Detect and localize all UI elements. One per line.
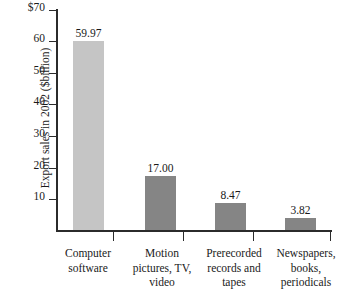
x-axis-line <box>56 230 332 232</box>
bar-value-prerecorded-records: 8.47 <box>220 189 240 201</box>
y-tick-label-40: 40 <box>34 95 46 107</box>
y-tick-50: 50 <box>49 73 58 74</box>
x-tick-2 <box>183 232 184 241</box>
x-tick-3 <box>253 232 254 241</box>
y-tick-label-30: 30 <box>34 127 46 139</box>
y-tick-label-20: 20 <box>34 159 46 171</box>
y-tick-20: 20 <box>49 168 58 169</box>
y-tick-label-10: 10 <box>34 190 46 202</box>
y-tick-60: 60 <box>49 41 58 42</box>
y-tick-30: 30 <box>49 136 58 137</box>
bar-chart: Export sales in 2002 ($billion) 10 20 30… <box>0 0 342 295</box>
y-tick-label-60: 60 <box>34 32 46 44</box>
bar-computer-software[interactable]: 59.97 <box>73 41 104 231</box>
category-line: periodicals <box>258 275 342 290</box>
y-tick-label-70: $70 <box>28 1 45 13</box>
plot-area: 10 20 30 40 50 60 $70 59.97 17.00 <box>56 9 332 232</box>
x-tick-1 <box>113 232 114 241</box>
y-tick-10: 10 <box>49 199 58 200</box>
x-tick-4 <box>330 232 331 241</box>
bar-newspapers-books[interactable]: 3.82 <box>285 218 316 230</box>
y-tick-label-50: 50 <box>34 64 46 76</box>
category-line: Newspapers, <box>258 246 342 261</box>
category-line: books, <box>258 261 342 276</box>
bar-prerecorded-records[interactable]: 8.47 <box>215 203 246 230</box>
y-tick-40: 40 <box>49 104 58 105</box>
bar-value-computer-software: 59.97 <box>76 27 102 39</box>
bar-value-newspapers-books: 3.82 <box>290 204 310 216</box>
bar-motion-pictures[interactable]: 17.00 <box>145 176 176 230</box>
bar-value-motion-pictures: 17.00 <box>148 162 174 174</box>
y-tick-70: $70 <box>49 10 58 11</box>
category-label-newspapers-books: Newspapers, books, periodicals <box>258 246 342 290</box>
